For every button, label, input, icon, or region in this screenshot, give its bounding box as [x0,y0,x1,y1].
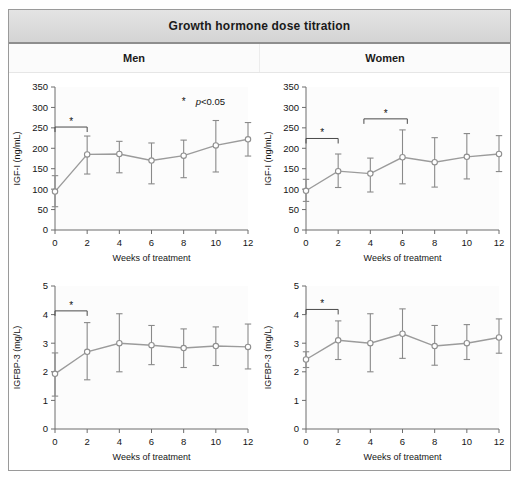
significance-star: * [320,298,324,309]
x-tick-label: 12 [243,237,254,248]
data-point [335,168,340,173]
x-tick-label: 10 [211,237,222,248]
y-tick-label: 3 [294,338,299,349]
data-point [245,137,250,142]
y-axis-title: IGFBP-3 (mg/L) [12,326,22,390]
x-tick-label: 8 [432,237,437,248]
plot-men-igfbp3: 012345024681012Weeks of treatmentIGFBP-3… [9,272,260,471]
x-axis-title: Weeks of treatment [113,253,191,263]
y-tick-label: 5 [43,280,48,291]
y-tick-label: 100 [32,184,48,195]
y-tick-label: 0 [43,224,48,235]
x-tick-label: 10 [462,436,473,447]
data-point [400,331,405,336]
y-tick-label: 150 [32,163,48,174]
x-tick-label: 4 [117,436,122,447]
chart-panel-men-igf1: 050100150200250300350024681012Weeks of t… [9,73,260,272]
data-point [464,341,469,346]
column-headers: Men Women [9,44,510,73]
data-point [52,371,57,376]
x-axis-title: Weeks of treatment [113,452,191,462]
plot-women-igf1: 050100150200250300350024681012Weeks of t… [260,73,511,272]
y-tick-label: 250 [32,122,48,133]
data-point [84,152,89,157]
x-tick-label: 10 [462,237,473,248]
plot-women-igfbp3: 012345024681012Weeks of treatmentIGFBP-3… [260,272,511,471]
y-tick-label: 3 [43,338,48,349]
page-title: Growth hormone dose titration [169,19,351,33]
y-tick-label: 350 [283,81,299,92]
y-tick-label: 5 [294,280,299,291]
figure-title-band: Growth hormone dose titration [9,10,510,44]
data-point [496,151,501,156]
panel-grid: 050100150200250300350024681012Weeks of t… [9,73,510,471]
legend-star: * [182,96,186,107]
y-tick-label: 2 [43,366,48,377]
x-tick-label: 2 [85,436,90,447]
plot-men-igf1: 050100150200250300350024681012Weeks of t… [9,73,260,272]
y-tick-label: 150 [283,163,299,174]
y-tick-label: 0 [43,423,48,434]
x-tick-label: 12 [243,436,254,447]
data-point [464,154,469,159]
x-tick-label: 6 [149,237,154,248]
column-header-men: Men [9,44,260,72]
x-axis-title: Weeks of treatment [364,452,442,462]
data-point [52,189,57,194]
data-point [181,153,186,158]
y-tick-label: 100 [283,184,299,195]
significance-star: * [69,300,73,311]
y-tick-label: 350 [32,81,48,92]
y-tick-label: 300 [283,102,299,113]
x-tick-label: 2 [336,237,341,248]
x-tick-label: 4 [117,237,122,248]
y-tick-label: 50 [288,204,299,215]
y-tick-label: 250 [283,122,299,133]
y-tick-label: 2 [294,366,299,377]
column-header-women: Women [260,44,510,72]
x-tick-label: 0 [52,237,57,248]
data-point [149,343,154,348]
data-point [117,341,122,346]
x-tick-label: 6 [400,436,405,447]
x-tick-label: 6 [400,237,405,248]
significance-star: * [384,108,388,119]
figure-container: Growth hormone dose titration Men Women … [8,9,511,471]
y-tick-label: 50 [37,204,48,215]
y-tick-label: 300 [32,102,48,113]
y-tick-label: 4 [43,309,48,320]
data-point [84,349,89,354]
y-axis-title: IGF-I (ng/mL) [263,131,273,185]
data-point [181,345,186,350]
x-tick-label: 8 [181,237,186,248]
x-tick-label: 8 [181,436,186,447]
x-tick-label: 2 [336,436,341,447]
significance-star: * [69,116,73,127]
y-tick-label: 4 [294,309,299,320]
x-tick-label: 0 [303,237,308,248]
data-point [432,159,437,164]
y-tick-label: 0 [294,224,299,235]
x-tick-label: 12 [494,436,505,447]
data-point [149,158,154,163]
legend-label: p<0.05 [195,96,225,107]
data-point [368,171,373,176]
data-point [213,343,218,348]
x-tick-label: 4 [368,237,373,248]
data-point [432,343,437,348]
data-point [245,344,250,349]
x-tick-label: 2 [85,237,90,248]
data-point [368,341,373,346]
data-point [335,338,340,343]
chart-panel-men-igfbp3: 012345024681012Weeks of treatmentIGFBP-3… [9,272,260,471]
data-point [496,335,501,340]
y-tick-label: 1 [294,395,299,406]
x-tick-label: 0 [303,436,308,447]
y-axis-title: IGFBP-3 (mg/L) [263,326,273,390]
data-point [400,155,405,160]
chart-panel-women-igfbp3: 012345024681012Weeks of treatmentIGFBP-3… [260,272,511,471]
data-point [303,357,308,362]
y-tick-label: 200 [283,143,299,154]
y-tick-label: 0 [294,423,299,434]
x-tick-label: 10 [211,436,222,447]
